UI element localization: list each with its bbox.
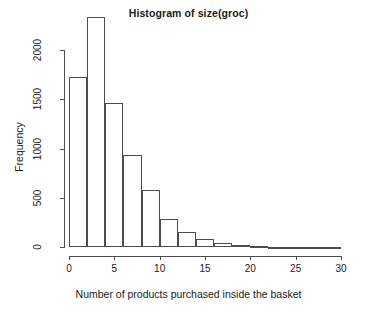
x-axis-tick: [69, 256, 70, 260]
y-axis-tick-label: 1000: [31, 129, 45, 169]
y-axis-tick: [60, 198, 64, 199]
histogram-bar: [250, 246, 268, 248]
histogram-bar: [87, 17, 105, 247]
y-axis-tick: [60, 149, 64, 150]
y-axis-line: [64, 50, 65, 248]
x-axis-tick-label: 0: [57, 263, 81, 274]
x-axis-tick: [341, 256, 342, 260]
histogram-bar: [69, 77, 87, 247]
x-axis-tick-label: 25: [284, 263, 308, 274]
histogram-bar: [287, 247, 305, 249]
y-axis-tick-label: 0: [31, 227, 45, 267]
histogram-bar: [160, 219, 178, 247]
histogram-bar: [305, 247, 323, 249]
x-axis-tick-label: 15: [193, 263, 217, 274]
y-axis-tick-label: 1500: [31, 79, 45, 119]
x-axis-tick-label: 20: [238, 263, 262, 274]
x-axis-tick: [205, 256, 206, 260]
histogram-bar: [214, 243, 232, 247]
x-axis-tick: [296, 256, 297, 260]
histogram-screenshot: Histogram of size(groc) 051015202530 050…: [0, 0, 377, 314]
histogram-bar: [142, 190, 160, 247]
histogram-bar: [323, 247, 341, 249]
histogram-bar: [268, 247, 286, 249]
x-axis-tick-label: 5: [102, 263, 126, 274]
x-axis-tick: [114, 256, 115, 260]
histogram-bar: [178, 232, 196, 247]
x-axis-tick: [250, 256, 251, 260]
x-axis-tick-label: 10: [148, 263, 172, 274]
x-axis-tick-label: 30: [329, 263, 353, 274]
y-axis-tick: [60, 247, 64, 248]
y-axis-tick: [60, 99, 64, 100]
x-axis-tick: [160, 256, 161, 260]
histogram-bar: [232, 245, 250, 247]
x-axis-title: Number of products purchased inside the …: [0, 288, 377, 300]
y-axis-tick-label: 500: [31, 178, 45, 218]
histogram-bar: [123, 155, 141, 247]
histogram-bar: [196, 239, 214, 247]
y-axis-tick-label: 2000: [31, 30, 45, 70]
y-axis-tick: [60, 50, 64, 51]
plot-area: 051015202530 0500100015002000: [0, 0, 377, 314]
histogram-bar: [105, 103, 123, 247]
y-axis-title: Frequency: [13, 87, 25, 207]
